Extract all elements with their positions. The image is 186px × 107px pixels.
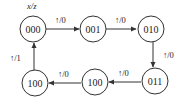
state-100-left: 100 xyxy=(22,70,48,96)
edge-label-100-000: ↑/1 xyxy=(10,53,21,63)
edge-label-001-010: ↑/0 xyxy=(115,15,126,25)
edge-label-100-100: ↑/0 xyxy=(58,69,69,79)
edge-label-010-011: ↑/0 xyxy=(163,50,174,60)
state-diagram: x/z ↑/0 ↑/0 ↑/0 ↑/0 ↑/0 ↑/1 000 001 010 … xyxy=(0,0,186,107)
state-label: 000 xyxy=(26,24,41,35)
state-001: 001 xyxy=(80,16,106,42)
edge-label-000-001: ↑/0 xyxy=(55,15,66,25)
state-000: 000 xyxy=(20,16,46,42)
legend-label: x/z xyxy=(26,1,37,11)
state-011: 011 xyxy=(142,68,168,94)
state-label: 100 xyxy=(28,78,43,89)
state-label: 100 xyxy=(88,77,103,88)
state-label: 001 xyxy=(86,24,101,35)
state-label: 011 xyxy=(148,76,163,87)
state-010: 010 xyxy=(138,16,164,42)
state-100-middle: 100 xyxy=(82,69,108,95)
state-label: 010 xyxy=(144,24,159,35)
edge-label-011-100: ↑/0 xyxy=(118,68,129,78)
